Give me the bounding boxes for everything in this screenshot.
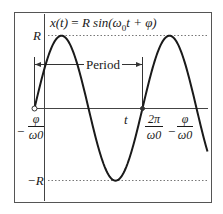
arrowhead-left-icon [35, 62, 41, 67]
equation-rhs-suffix: t + φ) [126, 15, 156, 30]
start-fraction-numerator: φ [28, 113, 44, 127]
end-fraction-2-denominator: ω0 [177, 127, 193, 141]
equation-equals: = [71, 15, 78, 30]
end-minus-sign: − [168, 125, 175, 138]
end-fraction-2-numerator: φ [177, 113, 193, 127]
start-minus-sign: − [17, 125, 24, 138]
equation-label: x(t) = R sin(ω0t + φ) [50, 16, 157, 33]
start-fraction-denominator: ω0 [28, 127, 44, 141]
end-fraction-1: 2π ω0 [145, 113, 163, 141]
arrowhead-right-icon [136, 62, 142, 67]
amplitude-neg-label: −R [27, 174, 44, 187]
start-fraction: φ ω0 [28, 113, 44, 141]
start-point-marker [32, 106, 37, 111]
end-fraction-1-denominator: ω0 [145, 127, 163, 141]
equation-rhs-prefix: R sin(ω [82, 15, 122, 30]
time-axis-label: t [124, 113, 128, 126]
end-point-marker [141, 107, 145, 111]
end-fraction-1-numerator: 2π [145, 113, 163, 127]
period-label: Period [86, 58, 120, 71]
end-fraction-2: φ ω0 [177, 113, 193, 141]
equation-lhs: x(t) [50, 15, 68, 30]
amplitude-pos-label: R [33, 29, 41, 42]
